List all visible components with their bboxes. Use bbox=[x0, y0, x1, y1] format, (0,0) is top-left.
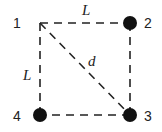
node-3 bbox=[123, 108, 137, 122]
node-3-label: 3 bbox=[144, 108, 152, 124]
node-1-label: 1 bbox=[13, 15, 21, 31]
node-4-label: 4 bbox=[13, 108, 21, 124]
node-4 bbox=[33, 108, 47, 122]
edge-1-3-diagonal bbox=[40, 23, 130, 115]
square-diagram: 1 2 3 4 L L d bbox=[0, 0, 162, 132]
node-2-label: 2 bbox=[144, 15, 152, 31]
left-edge-label: L bbox=[22, 67, 31, 83]
node-2 bbox=[123, 16, 137, 30]
diagonal-label: d bbox=[88, 53, 96, 69]
top-edge-label: L bbox=[81, 2, 90, 18]
